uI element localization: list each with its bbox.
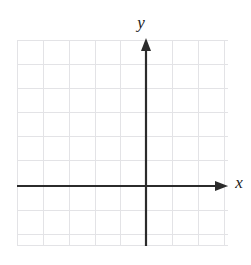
y-axis-label: y <box>133 14 149 31</box>
coordinate-plane-svg <box>0 0 251 265</box>
figure-background <box>0 0 251 265</box>
coordinate-plane-figure: y x <box>0 0 251 265</box>
x-axis-label: x <box>231 174 247 191</box>
